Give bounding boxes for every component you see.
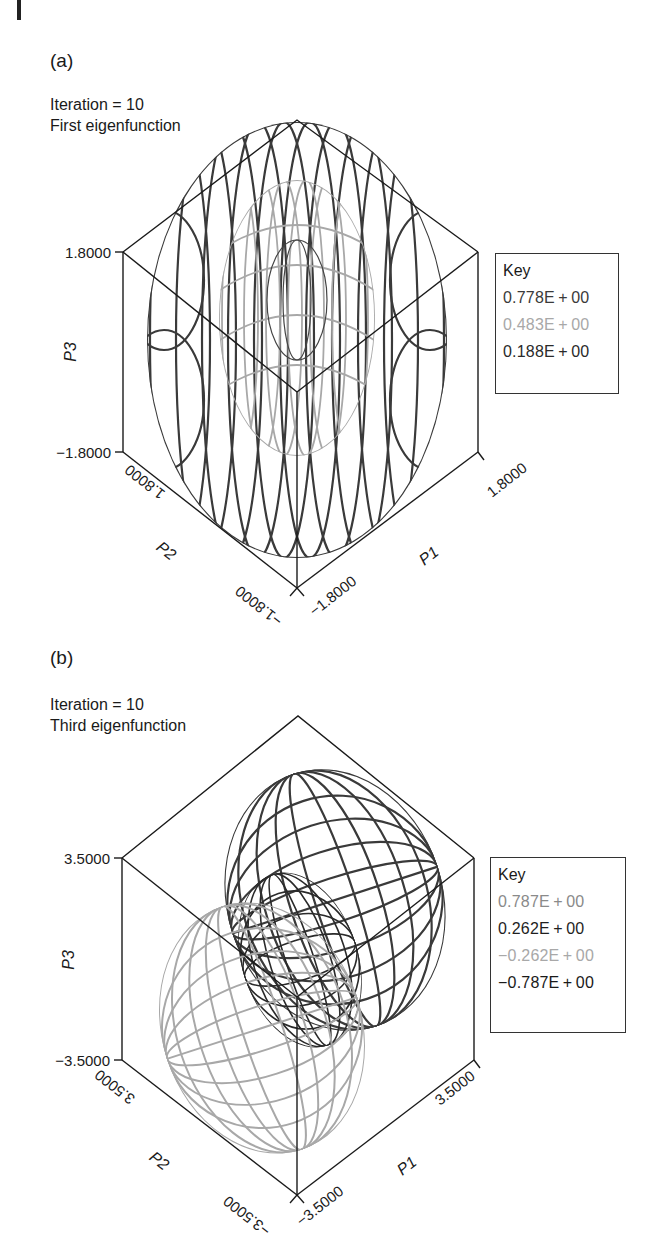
p1-axis-title: P1 [416, 543, 442, 568]
isosurface-inner [267, 240, 327, 360]
p1-min-label: −3.5000 [293, 1182, 347, 1229]
legend-item: 0.188E + 00 [503, 343, 612, 361]
legend-item: 0.483E + 00 [503, 316, 612, 334]
isosurface-positive-outer [191, 740, 479, 1060]
p3-max-label: 3.5000 [64, 850, 110, 867]
p1-axis-title: P1 [394, 1153, 420, 1178]
legend-item: 0.778E + 00 [503, 289, 612, 307]
legend-title: Key [498, 866, 619, 884]
p2-axis-title: P2 [146, 1148, 172, 1174]
p1-max-label: 1.8000 [483, 459, 530, 501]
p3-min-label: −1.8000 [56, 444, 111, 461]
panel-b-legend: Key 0.787E + 00 0.262E + 00 −0.262E + 00… [490, 857, 626, 1033]
legend-item: 0.262E + 00 [498, 920, 619, 938]
p2-min-label: −3.5000 [220, 1193, 274, 1240]
legend-item: −0.262E + 00 [498, 947, 619, 965]
legend-item: 0.787E + 00 [498, 893, 619, 911]
p3-axis-title: P3 [60, 950, 77, 970]
p3-axis-title: P3 [62, 342, 79, 362]
panel-a-legend: Key 0.778E + 00 0.483E + 00 0.188E + 00 [495, 253, 619, 394]
p3-max-label: 1.8000 [65, 244, 111, 261]
p3-min-label: −3.5000 [55, 1052, 110, 1069]
legend-item: −0.787E + 00 [498, 974, 619, 992]
legend-title: Key [503, 262, 612, 280]
p2-axis-title: P2 [153, 538, 179, 564]
p2-max-label: 3.5000 [91, 1067, 138, 1109]
